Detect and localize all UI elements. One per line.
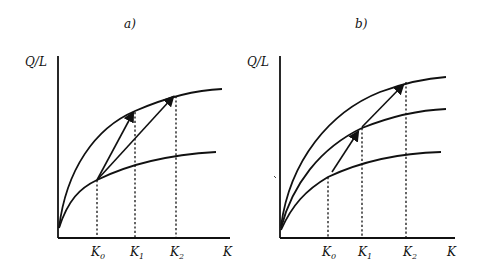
panel-a-arrow-k0-k2 [97, 97, 173, 180]
panel-a-tick-k2: K2 [169, 245, 184, 261]
stray-mark [274, 176, 276, 178]
panel-b-tick-k2: K2 [402, 245, 417, 261]
panel-a: a) Q/L K0 K1 K2 K [25, 17, 233, 261]
panel-b-tick-k1: K1 [357, 245, 372, 261]
panel-b-x-axis-label: K [446, 245, 457, 259]
panel-a-y-axis-label: Q/L [25, 55, 47, 69]
panel-a-tick-k0: K0 [90, 245, 105, 261]
panel-a-x-axis-label: K [222, 245, 233, 259]
panel-a-title: a) [124, 17, 136, 31]
panel-b-middle-curve [281, 109, 446, 228]
panel-b-upper-curve [281, 77, 446, 226]
panel-b-title: b) [355, 17, 368, 31]
panel-b-y-axis-label: Q/L [247, 55, 269, 69]
panel-a-upper-curve [59, 89, 222, 228]
panel-a-tick-k1: K1 [129, 245, 144, 261]
diagram-canvas: a) Q/L K0 K1 K2 K b) Q/L [0, 0, 479, 269]
panel-a-lower-curve [59, 152, 216, 228]
panel-b-lower-curve [281, 152, 441, 230]
panel-b: b) Q/L K0 K1 K2 K [247, 17, 457, 261]
panel-b-tick-k0: K0 [321, 245, 336, 261]
